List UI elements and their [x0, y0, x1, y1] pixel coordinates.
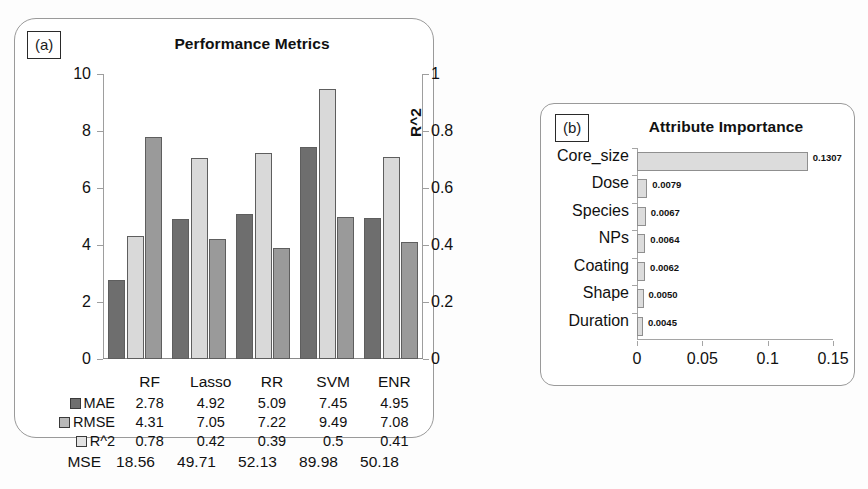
right-axis-tick-label: 0: [431, 350, 491, 368]
bar-rmse-enr: [383, 157, 400, 359]
table-cell: 7.08: [364, 413, 425, 432]
left-axis-tick-label: 4: [31, 236, 91, 254]
table-cell: 9.49: [303, 413, 364, 432]
bar-r2-rf: [145, 137, 162, 359]
attribute-value-label: 0.0067: [651, 207, 680, 218]
attribute-label: Coating: [574, 257, 629, 275]
table-cell: 7.45: [303, 394, 364, 413]
left-axis-tick-label: 10: [31, 65, 91, 83]
attribute-label: NPs: [599, 229, 629, 247]
right-axis-tick: [423, 188, 429, 189]
right-axis-tick-label: 0.8: [431, 122, 491, 140]
attribute-bar: [637, 289, 644, 308]
right-axis-tick: [423, 359, 429, 360]
table-cell: 0.39: [241, 432, 302, 451]
grouped-bar-chart-plot-area: 0246810 00.20.40.60.81: [103, 74, 423, 359]
table-cell: 4.31: [119, 413, 180, 432]
bar-group: [231, 74, 295, 359]
attribute-bar: [637, 152, 808, 171]
mse-cell: 50.18: [349, 452, 410, 472]
panel-b-tag: (b): [555, 114, 589, 142]
legend-label: R^2: [90, 433, 115, 449]
attribute-label: Dose: [592, 174, 629, 192]
attribute-bar: [637, 207, 646, 226]
attribute-row: NPs0.0064: [637, 230, 833, 257]
bar-mae-rf: [108, 280, 125, 359]
table-corner-cell: [33, 371, 119, 394]
left-axis-tick-label: 2: [31, 293, 91, 311]
table-cell: 2.78: [119, 394, 180, 413]
attribute-value-label: 0.0050: [649, 289, 678, 300]
table-column-header: ENR: [364, 371, 425, 394]
category-axis-tick: [632, 175, 637, 176]
table-row-label: RMSE: [33, 413, 119, 432]
value-axis-tick-label: 0: [633, 350, 642, 368]
right-axis-title: R^2: [407, 108, 425, 137]
value-axis-tick-label: 0.15: [817, 350, 848, 368]
attribute-row: Dose0.0079: [637, 175, 833, 202]
bar-rmse-lasso: [191, 158, 208, 359]
mse-cell: 52.13: [227, 452, 288, 472]
left-axis-tick-label: 8: [31, 122, 91, 140]
bar-group: [167, 74, 231, 359]
bar-group: [103, 74, 167, 359]
attribute-row: Species0.0067: [637, 203, 833, 230]
table-cell: 4.95: [364, 394, 425, 413]
value-axis-tick-label: 0.05: [687, 350, 718, 368]
attribute-value-label: 0.0064: [650, 234, 679, 245]
panel-a-performance-metrics: (a) Performance Metrics 0246810 00.20.40…: [14, 18, 434, 438]
attribute-label: Shape: [583, 284, 629, 302]
value-axis-tick: [702, 341, 703, 346]
bar-mae-lasso: [172, 219, 189, 359]
value-axis-tick-label: 0.1: [757, 350, 779, 368]
mse-row: MSE18.5649.7152.1389.9850.18: [18, 452, 410, 472]
mse-cell: 18.56: [105, 452, 166, 472]
category-axis-tick: [632, 203, 637, 204]
bar-r2-svm: [337, 217, 354, 360]
table-column-header: Lasso: [180, 371, 241, 394]
legend-label: RMSE: [73, 414, 115, 430]
table-row-label: MAE: [33, 394, 119, 413]
table-cell: 7.22: [241, 413, 302, 432]
attribute-bar: [637, 262, 645, 281]
attribute-value-label: 0.0062: [650, 262, 679, 273]
table-cell: 7.05: [180, 413, 241, 432]
bar-mae-svm: [300, 147, 317, 359]
bar-r2-rr: [273, 248, 290, 359]
attribute-bar: [637, 317, 643, 336]
bar-mae-enr: [364, 218, 381, 359]
mse-cell: 49.71: [166, 452, 227, 472]
mse-row-label: MSE: [18, 452, 105, 472]
table-header-row: RFLassoRRSVMENR: [33, 371, 425, 394]
bar-rmse-svm: [319, 89, 336, 359]
table-cell: 4.92: [180, 394, 241, 413]
attribute-bar: [637, 179, 647, 198]
left-axis-tick-label: 0: [31, 350, 91, 368]
table-row-label: R^2: [33, 432, 119, 451]
panel-a-title: Performance Metrics: [127, 35, 377, 53]
attribute-label: Species: [572, 202, 629, 220]
table-cell: 0.41: [364, 432, 425, 451]
table-row: RMSE4.317.057.229.497.08: [33, 413, 425, 432]
table-cell: 0.78: [119, 432, 180, 451]
table-column-header: RF: [119, 371, 180, 394]
bar-rmse-rf: [127, 236, 144, 359]
right-axis-tick-label: 0.2: [431, 293, 491, 311]
bar-r2-enr: [401, 242, 418, 359]
panel-a-tag: (a): [27, 31, 61, 59]
attribute-value-label: 0.0079: [652, 179, 681, 190]
legend-swatch-icon: [76, 436, 87, 447]
attribute-row: Core_size0.1307: [637, 148, 833, 175]
bar-group: [295, 74, 359, 359]
value-axis-tick: [768, 341, 769, 346]
bar-r2-lasso: [209, 239, 226, 359]
attribute-row: Coating0.0062: [637, 258, 833, 285]
right-axis-tick: [423, 302, 429, 303]
category-axis-tick: [632, 313, 637, 314]
bar-rmse-rr: [255, 153, 272, 359]
legend-swatch-icon: [70, 398, 81, 409]
panel-b-attribute-importance: (b) Attribute Importance Core_size0.1307…: [540, 103, 855, 386]
attribute-row: Duration0.0045: [637, 313, 833, 340]
attribute-value-label: 0.0045: [648, 317, 677, 328]
table-row: MAE2.784.925.097.454.95: [33, 394, 425, 413]
